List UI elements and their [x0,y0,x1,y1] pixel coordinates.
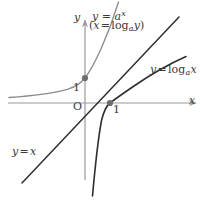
origin-label: O [73,101,82,112]
y-unit-tick-label: 1 [73,82,80,93]
exponential-inverse-label: (x=logay) [89,20,144,32]
logarithmic-curve-label: y=logax [150,64,197,76]
inverse-lhs: x [93,19,99,32]
x-unit-tick-label: 1 [113,104,120,115]
identity-label-equals: = [18,145,30,158]
inverse-equals: = [100,19,112,32]
inverse-log-fn: log [111,19,128,32]
identity-label-rhs: x [30,145,36,158]
x-axis-label: x [189,95,195,106]
log-label-fn: log [168,63,185,76]
y-axis [82,20,87,180]
identity-line-curve [22,17,179,183]
exponential-label-exponent: x [121,8,126,18]
point-0-1-dot [82,75,88,81]
inverse-close-paren: ) [140,19,144,32]
y-axis-label: y [74,12,80,23]
math-figure: y x O 1 1 y = ax (x=logay) y=logax y=x [0,0,215,204]
log-label-arg: x [190,63,196,76]
logarithmic-curve [93,57,187,197]
log-label-equals: = [156,63,168,76]
identity-line-label: y=x [12,146,36,157]
x-axis [8,100,196,105]
